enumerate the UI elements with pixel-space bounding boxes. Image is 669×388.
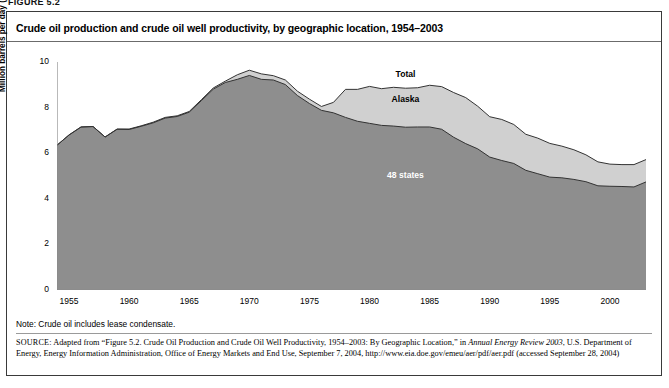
series-label-alaska: Alaska bbox=[392, 94, 420, 104]
y-tick-label: 2 bbox=[27, 238, 49, 248]
source-italic-title: Annual Energy Review 2003 bbox=[468, 338, 562, 347]
x-tick-label: 1985 bbox=[410, 296, 450, 306]
x-tick-label: 2000 bbox=[590, 296, 630, 306]
x-tick-label: 1975 bbox=[289, 296, 329, 306]
source-citation: SOURCE: Adapted from “Figure 5.2. Crude … bbox=[16, 337, 650, 359]
x-tick-label: 1970 bbox=[229, 296, 269, 306]
source-url-line: http://www.eia.doe.gov/emeu/aer/pdf/aer.… bbox=[365, 349, 619, 358]
x-tick-label: 1980 bbox=[350, 296, 390, 306]
y-tick-label: 10 bbox=[27, 56, 49, 66]
series-label-total: Total bbox=[396, 69, 416, 79]
y-tick-label: 0 bbox=[27, 284, 49, 294]
y-tick-label: 4 bbox=[27, 193, 49, 203]
title-divider bbox=[7, 41, 661, 42]
x-tick-label: 1960 bbox=[109, 296, 149, 306]
source-line1a: Adapted from “Figure 5.2. Crude Oil Prod… bbox=[53, 338, 468, 347]
x-tick-label: 1965 bbox=[169, 296, 209, 306]
figure-number: FIGURE 5.2 bbox=[8, 0, 60, 7]
y-axis-label: Million barrels per day (cumulative) bbox=[0, 0, 7, 92]
stacked-area-chart bbox=[57, 62, 646, 290]
source-divider bbox=[16, 333, 652, 334]
x-tick-label: 1990 bbox=[470, 296, 510, 306]
y-tick-label: 6 bbox=[27, 147, 49, 157]
x-tick-label: 1955 bbox=[49, 296, 89, 306]
chart-plot-area bbox=[57, 62, 646, 290]
chart-note: Note: Crude oil includes lease condensat… bbox=[16, 319, 175, 329]
figure-title: Crude oil production and crude oil well … bbox=[16, 22, 443, 34]
source-prefix: SOURCE: bbox=[16, 338, 52, 347]
x-tick-label: 1995 bbox=[530, 296, 570, 306]
y-tick-label: 8 bbox=[27, 102, 49, 112]
figure-root: FIGURE 5.2 Crude oil production and crud… bbox=[0, 0, 669, 388]
series-label-48-states: 48 states bbox=[387, 170, 424, 180]
